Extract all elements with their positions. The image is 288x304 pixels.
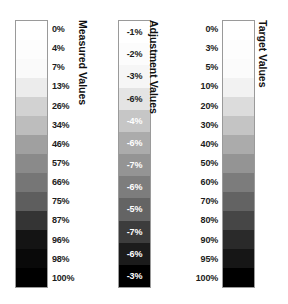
colorbar-band [16,192,47,211]
colorbar-band [223,230,254,249]
tick-label: 90% [186,236,218,245]
colorbar-band [223,135,254,154]
colorbar-band [16,268,47,287]
colorbar-band: -2% [119,43,150,65]
tick-label: 50% [186,159,218,168]
colorbar-band [223,59,254,78]
colorbar-band [16,40,47,59]
tick-label: 80% [186,216,218,225]
colorbar-band [223,116,254,135]
colorbar-band: -6% [119,132,150,154]
legend-figure: 0%4%7%13%26%34%46%57%66%75%87%96%98%100%… [0,0,288,304]
colorbar-band: -6% [119,243,150,265]
tick-label: -7% [119,161,150,170]
tick-label: 30% [186,121,218,130]
tick-label: -1% [119,28,150,37]
colorbar-adjustment-values: -1%-2%-3%-6%-4%-6%-7%-6%-5%-7%-6%-3% [118,20,151,288]
tick-label: -2% [119,50,150,59]
colorbar-group-adjustment-values: -1%-2%-3%-6%-4%-6%-7%-6%-5%-7%-6%-3% Adj… [96,0,192,304]
colorbar-band [16,211,47,230]
colorbar-group-target-values: 0%3%5%10%20%30%40%50%60%70%80%90%95%100%… [192,0,288,304]
colorbar-band: -5% [119,198,150,220]
tick-label: 0% [186,25,218,34]
colorbar-band: -7% [119,154,150,176]
tick-label: 20% [186,102,218,111]
tick-label: 100% [186,274,218,283]
tick-label: 60% [186,178,218,187]
tick-label: -7% [119,227,150,236]
colorbar-band: -6% [119,176,150,198]
tick-label: -3% [119,271,150,280]
colorbar-band: -1% [119,21,150,43]
colorbar-band: -6% [119,88,150,110]
colorbar-band [16,154,47,173]
colorbar-target-values [222,20,255,288]
colorbar-band [16,78,47,97]
colorbar-band [16,21,47,40]
tick-label: -3% [119,72,150,81]
colorbar-band [223,268,254,287]
colorbar-band [223,154,254,173]
tick-label: 70% [186,197,218,206]
tick-label: 34% [52,121,86,130]
colorbar-band [16,230,47,249]
colorbar-band [223,78,254,97]
colorbar-band [16,173,47,192]
axis-title-measured-values: Measured Values [78,20,89,105]
tick-label: 46% [52,140,86,149]
colorbar-band [16,97,47,116]
colorbar-band [223,97,254,116]
colorbar-band [223,192,254,211]
colorbar-band: -3% [119,265,150,287]
tick-label: -4% [119,116,150,125]
colorbar-band [223,173,254,192]
tick-label: 98% [52,255,86,264]
colorbar-band [16,135,47,154]
colorbar-band [223,40,254,59]
colorbar-band [223,21,254,40]
colorbar-group-measured-values: 0%4%7%13%26%34%46%57%66%75%87%96%98%100%… [0,0,96,304]
colorbar-band: -7% [119,221,150,243]
colorbar-band: -4% [119,110,150,132]
colorbar-measured-values [15,20,48,288]
colorbar-band [16,249,47,268]
colorbar-band [16,116,47,135]
colorbar-band [223,211,254,230]
colorbar-band: -3% [119,65,150,87]
tick-label: 100% [52,274,86,283]
tick-label: 3% [186,44,218,53]
tick-label: 57% [52,159,86,168]
tick-label: -6% [119,249,150,258]
tick-label: 40% [186,140,218,149]
tick-label: 66% [52,178,86,187]
colorbar-band [223,249,254,268]
tick-label: -6% [119,183,150,192]
tick-label: -6% [119,94,150,103]
tick-label-stack-target-values: 0%3%5%10%20%30%40%50%60%70%80%90%95%100% [186,20,218,288]
axis-title-target-values: Target Values [258,20,269,88]
tick-label: 5% [186,63,218,72]
tick-label: 75% [52,197,86,206]
tick-label: 10% [186,82,218,91]
colorbar-band [16,59,47,78]
tick-label: 96% [52,236,86,245]
tick-label: 87% [52,216,86,225]
tick-label: -6% [119,138,150,147]
tick-label: 95% [186,255,218,264]
axis-title-adjustment-values: Adjustment Values [149,20,160,114]
tick-label: -5% [119,205,150,214]
